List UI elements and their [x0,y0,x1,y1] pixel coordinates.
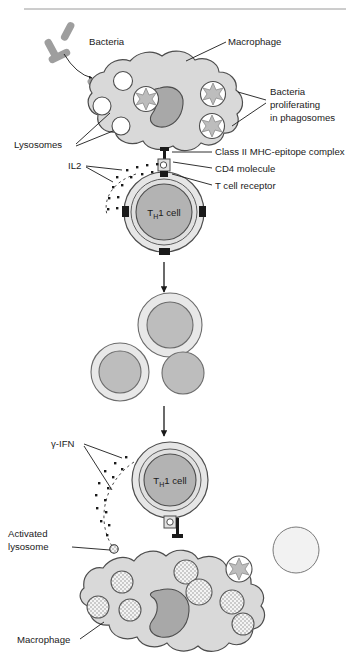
phagosome-with-bacteria [134,87,159,112]
label-cd4-molecule: CD4 molecule [215,163,275,174]
phagosome-with-bacteria-bottom [226,556,252,582]
phagosome-with-bacteria [201,82,226,107]
t-cell-receptor [159,248,170,255]
label-bacteria: Bacteria [89,36,125,47]
activated-lysosome-marker [110,545,118,553]
activated-lysosome [232,613,254,635]
activated-lysosome [87,596,109,618]
label-il2: IL2 [68,160,81,171]
label-lysosomes: Lysosomes [14,139,62,150]
lysosome-vesicle [112,117,130,135]
label-macrophage-bottom: Macrophage [17,634,70,645]
t-cell-receptor [122,206,129,217]
phagosome-with-bacteria [200,114,225,139]
activated-lysosome [111,571,133,593]
activated-lysosome [186,579,212,605]
lysosome-vesicle [114,72,133,91]
label-bacteria-proliferating-1: Bacteria [270,86,306,97]
isolated-cell [273,527,319,573]
label-gamma-ifn: γ-IFN [51,438,75,449]
th1-cell-stage3: TH1 cell [132,442,208,518]
t-cell-receptor [199,206,206,217]
lysosome-vesicle [93,97,111,115]
cd4-molecule [158,159,170,171]
activated-lysosome [119,599,141,621]
label-activated-lysosome-2: lysosome [8,541,49,552]
daughter-cell [162,352,204,394]
immunology-diagram-svg: TH1 cell Bacteria Macrophage [0,0,359,657]
label-bacteria-proliferating-2: proliferating [270,99,320,110]
t-cell-receptor-top [160,171,168,177]
label-activated-lysosome-1: Activated [8,528,47,539]
label-t-cell-receptor: T cell receptor [215,180,276,191]
label-bacteria-proliferating-3: in phagosomes [270,112,335,123]
daughter-cell [91,343,149,401]
daughter-cell [138,293,202,357]
label-mhc-complex: Class II MHC-epitope complex [215,146,345,157]
figure-canvas: TH1 cell Bacteria Macrophage [0,0,359,657]
label-macrophage-top: Macrophage [228,36,281,47]
activated-lysosome [220,590,244,614]
